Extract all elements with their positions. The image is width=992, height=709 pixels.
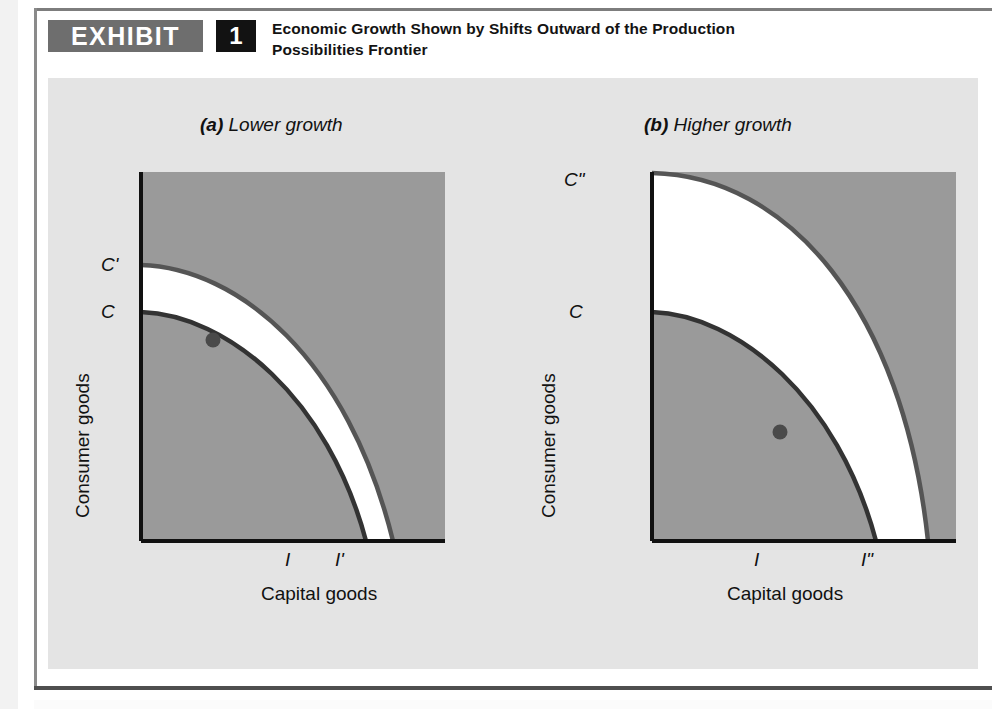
chart-b-regions [652, 172, 956, 541]
exhibit-page: EXHIBIT 1 Economic Growth Shown by Shift… [0, 0, 992, 709]
page-edge-white [18, 0, 28, 709]
frame-rule-top [34, 8, 992, 11]
chart-b-svg [48, 78, 978, 669]
chart-b-point-B-marker [773, 425, 788, 440]
exhibit-badge: EXHIBIT [48, 20, 203, 52]
footer-rule [34, 686, 992, 690]
exhibit-title: Economic Growth Shown by Shifts Outward … [272, 18, 792, 60]
exhibit-header: EXHIBIT 1 Economic Growth Shown by Shift… [48, 18, 978, 70]
exhibit-figure-panel: (a) Lower growth Consumer goods Capital … [48, 78, 978, 669]
page-bottom-edge [34, 700, 992, 709]
frame-rule-left [34, 8, 37, 689]
exhibit-number-badge: 1 [216, 20, 256, 52]
page-edge-shadow [0, 0, 18, 709]
